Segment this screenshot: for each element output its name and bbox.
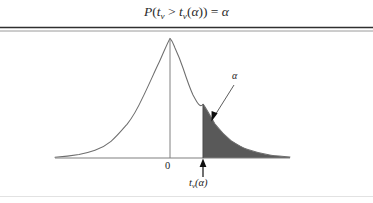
critical-value-arrow-icon xyxy=(200,159,207,178)
critical-value-label: tν(α) xyxy=(189,178,208,190)
shaded-tail-area xyxy=(203,104,290,158)
title-greater-than-symbol: > xyxy=(168,4,176,19)
title-alpha-right: α xyxy=(222,4,229,19)
origin-tick-label: 0 xyxy=(165,161,170,172)
alpha-leader-arrow-icon xyxy=(212,85,235,122)
distribution-plot xyxy=(0,0,373,203)
critical-value-argument: (α) xyxy=(195,177,208,188)
density-curve xyxy=(55,38,290,157)
page-title: P(tν > tν(α)) = α xyxy=(0,5,373,21)
tail-area-alpha-label: α xyxy=(232,71,237,81)
t-distribution-figure: P(tν > tν(α)) = α 0 tν(α) α xyxy=(0,0,373,203)
